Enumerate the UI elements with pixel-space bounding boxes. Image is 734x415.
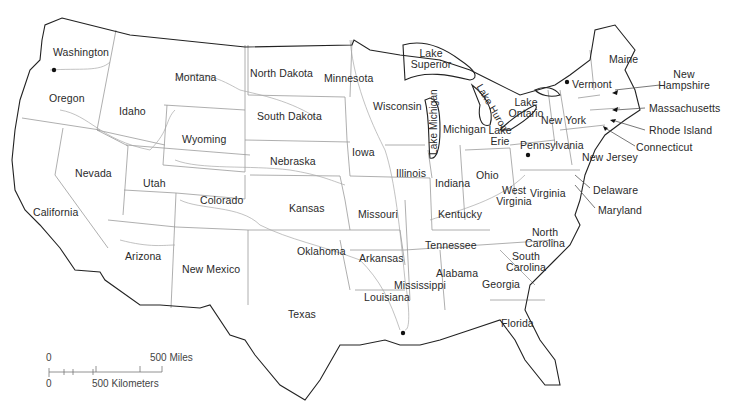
- state-label-wisconsin: Wisconsin: [373, 101, 422, 112]
- us-map: Washington Oregon Montana Idaho Wyoming …: [0, 0, 734, 415]
- state-label-washington: Washington: [53, 47, 109, 58]
- state-label-nevada: Nevada: [75, 168, 112, 179]
- state-label-arizona: Arizona: [125, 251, 161, 262]
- state-label-new-mexico: New Mexico: [182, 264, 240, 275]
- state-label-indiana: Indiana: [435, 178, 470, 189]
- state-label-vermont: Vermont: [572, 79, 612, 90]
- state-label-kentucky: Kentucky: [438, 209, 482, 220]
- scale-km-label: 500 Kilometers: [92, 378, 159, 389]
- state-label-utah: Utah: [143, 178, 166, 189]
- state-label-delaware: Delaware: [593, 185, 638, 196]
- scale-km-zero: 0: [46, 378, 52, 389]
- state-label-south-carolina: SouthCarolina: [506, 251, 546, 273]
- state-label-alabama: Alabama: [436, 268, 478, 279]
- state-label-louisiana: Louisiana: [364, 292, 410, 303]
- state-label-massachusetts: Massachusetts: [649, 103, 720, 114]
- state-label-california: California: [33, 207, 78, 218]
- state-label-connecticut: Connecticut: [636, 142, 693, 153]
- state-label-rhode-island: Rhode Island: [649, 125, 712, 136]
- state-label-wyoming: Wyoming: [182, 134, 226, 145]
- scale-bar: [49, 366, 162, 377]
- state-label-kansas: Kansas: [289, 203, 325, 214]
- state-label-north-dakota: North Dakota: [250, 68, 313, 79]
- lake-label-ontario: LakeOntario: [508, 97, 543, 119]
- state-label-west-virginia: WestVirginia: [496, 185, 532, 207]
- state-label-south-dakota: South Dakota: [257, 111, 322, 122]
- lake-label-michigan: Lake Michigan: [428, 89, 439, 155]
- state-label-tennessee: Tennessee: [425, 240, 477, 251]
- state-label-michigan: Michigan: [443, 124, 486, 135]
- state-label-maryland: Maryland: [598, 205, 642, 216]
- state-label-iowa: Iowa: [352, 147, 375, 158]
- state-label-minnesota: Minnesota: [324, 73, 373, 84]
- state-label-new-york: New York: [541, 115, 586, 126]
- state-label-mississippi: Mississippi: [394, 280, 446, 291]
- state-label-maine: Maine: [609, 54, 638, 65]
- scale-miles-label: 500 Miles: [150, 352, 193, 363]
- state-label-montana: Montana: [175, 72, 217, 83]
- state-label-texas: Texas: [288, 309, 316, 320]
- scale-miles-zero: 0: [46, 352, 52, 363]
- state-label-oregon: Oregon: [49, 93, 85, 104]
- state-label-georgia: Georgia: [482, 279, 520, 290]
- state-label-missouri: Missouri: [358, 209, 398, 220]
- state-label-new-jersey: New Jersey: [582, 152, 638, 163]
- state-label-virginia: Virginia: [530, 188, 566, 199]
- state-label-oklahoma: Oklahoma: [297, 246, 346, 257]
- state-label-north-carolina: NorthCarolina: [525, 227, 565, 249]
- lake-label-superior: LakeSuperior: [411, 48, 452, 70]
- state-label-illinois: Illinois: [396, 168, 426, 179]
- state-label-pennsylvania: Pennsylvania: [520, 140, 584, 151]
- state-label-new-hampshire: NewHampshire: [658, 69, 710, 91]
- state-label-florida: Florida: [501, 318, 534, 329]
- state-label-colorado: Colorado: [200, 195, 243, 206]
- callout-arrows: [603, 90, 618, 131]
- state-label-nebraska: Nebraska: [270, 156, 316, 167]
- state-label-arkansas: Arkansas: [359, 253, 404, 264]
- state-label-ohio: Ohio: [476, 170, 499, 181]
- state-label-idaho: Idaho: [119, 106, 146, 117]
